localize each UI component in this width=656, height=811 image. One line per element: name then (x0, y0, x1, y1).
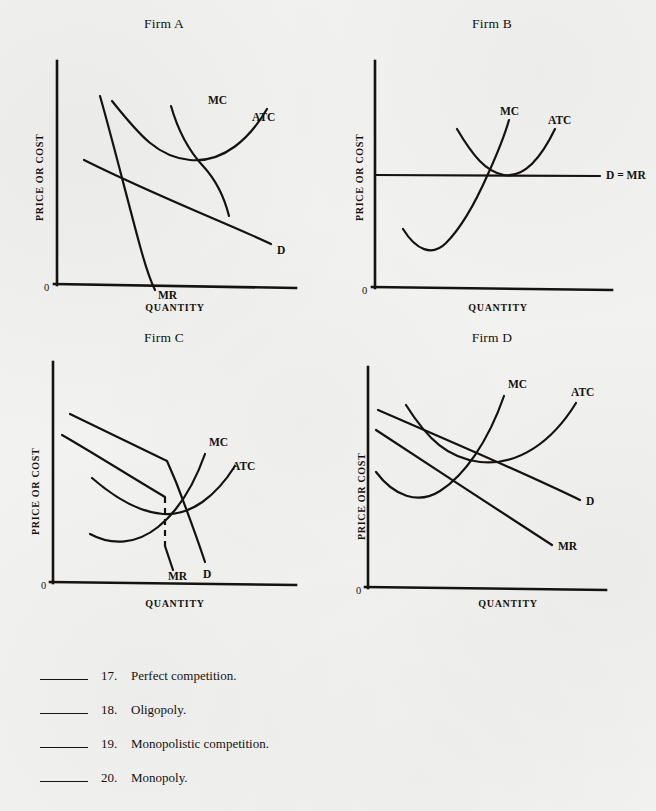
origin-label-firm-c: 0 (41, 580, 46, 591)
chart-title-firm-a: Firm A (0, 16, 328, 32)
question-number-18: 18. (101, 702, 131, 718)
chart-svg-firm-d: 0 MC ATC D MR (328, 330, 656, 630)
chart-svg-firm-b: 0 MC ATC D = MR (328, 16, 656, 326)
curve-d-firm-a (84, 160, 271, 244)
question-list: 17. Perfect competition. 18. Oligopoly. … (40, 668, 540, 804)
curve-label-d-firm-a: D (277, 244, 285, 256)
curve-d-firm-d (378, 410, 580, 500)
y-axis-label-firm-b: PRICE OR COST (354, 134, 365, 221)
origin-label-firm-a: 0 (44, 282, 49, 293)
curve-label-mr-firm-c: MR (168, 570, 188, 582)
y-axis-label-firm-d: PRICE OR COST (356, 453, 367, 540)
curve-label-atc-firm-a: ATC (252, 111, 275, 123)
curve-d-firm-c (70, 414, 205, 562)
answer-blank-18[interactable] (40, 702, 88, 714)
x-axis-firm-d (365, 587, 606, 590)
curve-atc-firm-b (457, 129, 555, 175)
curve-label-mr-firm-a: MR (158, 289, 178, 301)
origin-label-firm-d: 0 (356, 585, 361, 596)
chart-panel-firm-b: Firm B PRICE OR COST QUANTITY 0 MC ATC D… (328, 16, 656, 326)
chart-panel-firm-a: Firm A PRICE OR COST QUANTITY 0 MC ATC D… (0, 16, 328, 326)
curve-label-d-firm-d: D (586, 495, 594, 507)
chart-title-firm-c: Firm C (0, 330, 328, 346)
x-axis-label-firm-a: QUANTITY (105, 302, 245, 313)
x-axis-firm-a (54, 284, 296, 288)
curve-label-atc-firm-b: ATC (548, 114, 571, 126)
curve-mr-firm-a (100, 96, 155, 290)
curve-label-d-mr-firm-b: D = MR (606, 169, 646, 181)
curve-mc-firm-b (403, 120, 509, 250)
x-axis-label-firm-b: QUANTITY (428, 302, 568, 313)
question-row: 18. Oligopoly. (40, 702, 540, 736)
question-text-18: Oligopoly. (131, 702, 186, 718)
question-row: 20. Monopoly. (40, 770, 540, 804)
curve-atc-firm-a (112, 101, 267, 160)
question-text-20: Monopoly. (131, 770, 188, 786)
y-axis-label-firm-a: PRICE OR COST (34, 134, 45, 221)
answer-blank-17[interactable] (40, 668, 88, 680)
x-axis-firm-c (50, 582, 296, 585)
answer-blank-20[interactable] (40, 770, 88, 782)
curve-label-mc-firm-a: MC (208, 94, 227, 106)
curve-label-mc-firm-d: MC (508, 378, 527, 390)
curve-label-atc-firm-c: ATC (232, 460, 255, 472)
question-text-19: Monopolistic competition. (131, 736, 269, 752)
curve-atc-firm-c (92, 466, 235, 514)
question-number-17: 17. (101, 668, 131, 684)
mr-leader-line-firm-c (165, 546, 173, 570)
origin-label-firm-b: 0 (362, 285, 367, 296)
x-axis-firm-b (372, 287, 612, 290)
curve-label-mc-firm-c: MC (209, 436, 228, 448)
curve-mr-firm-c (62, 435, 165, 497)
chart-title-firm-b: Firm B (328, 16, 656, 32)
curve-mc-firm-c (90, 454, 205, 542)
y-axis-label-firm-c: PRICE OR COST (30, 448, 41, 535)
curve-label-atc-firm-d: ATC (571, 386, 594, 398)
curve-mc-firm-a (171, 106, 229, 216)
question-number-20: 20. (101, 770, 131, 786)
question-row: 19. Monopolistic competition. (40, 736, 540, 770)
x-axis-label-firm-c: QUANTITY (105, 598, 245, 609)
answer-blank-19[interactable] (40, 736, 88, 748)
chart-svg-firm-a: 0 MC ATC D MR (0, 16, 328, 326)
chart-panel-firm-d: Firm D PRICE OR COST QUANTITY 0 MC ATC D… (328, 330, 656, 630)
question-text-17: Perfect competition. (131, 668, 236, 684)
curve-label-d-firm-c: D (203, 568, 211, 580)
x-axis-label-firm-d: QUANTITY (438, 598, 578, 609)
chart-title-firm-d: Firm D (328, 330, 656, 346)
chart-svg-firm-c: 0 MC ATC MR D (0, 330, 328, 630)
chart-panel-firm-c: Firm C PRICE OR COST QUANTITY 0 MC ATC M… (0, 330, 328, 630)
question-number-19: 19. (101, 736, 131, 752)
question-row: 17. Perfect competition. (40, 668, 540, 702)
curve-label-mr-firm-d: MR (558, 540, 578, 552)
curve-label-mc-firm-b: MC (500, 105, 519, 117)
